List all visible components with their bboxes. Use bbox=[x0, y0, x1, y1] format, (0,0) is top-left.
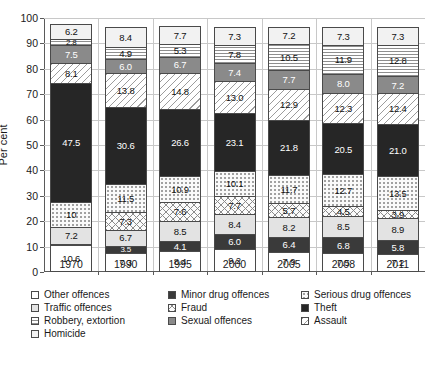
figure: Per cent 0102030405060708090100 6.22.87.… bbox=[0, 0, 441, 366]
legend-item-serious[interactable]: Serious drug offences bbox=[301, 288, 431, 301]
bar-stack[interactable]: 7.37.87.413.023.110.17.78.46.09.2 bbox=[214, 28, 256, 272]
bar-segment[interactable]: 8.5 bbox=[159, 221, 201, 243]
bar-segment-value: 6.2 bbox=[65, 27, 78, 37]
bar-segment[interactable]: 12.9 bbox=[268, 89, 310, 122]
bar-segment[interactable]: 8.4 bbox=[214, 214, 256, 235]
bar-stack[interactable]: 8.44.96.013.830.611.57.36.73.57.3 bbox=[105, 28, 147, 272]
legend-item-fraud[interactable]: Fraud bbox=[168, 301, 301, 314]
bar-segment[interactable]: 13.8 bbox=[105, 73, 147, 108]
legend-item-minor[interactable]: Minor drug offences bbox=[168, 288, 301, 301]
bar-segment[interactable]: 7.3 bbox=[322, 27, 364, 46]
bar-segment-value: 13.8 bbox=[117, 86, 135, 96]
bar-segment[interactable]: 12.4 bbox=[377, 93, 419, 124]
bar-segment[interactable]: 6.7 bbox=[105, 230, 147, 247]
bar-segment[interactable]: 6.0 bbox=[214, 234, 256, 249]
bar-segment[interactable]: 6.4 bbox=[268, 237, 310, 253]
bar-stack[interactable]: 7.75.36.714.826.610.97.68.54.18.4 bbox=[159, 27, 201, 272]
legend-item-homicide[interactable]: Homicide bbox=[31, 328, 168, 341]
legend-swatch-theft bbox=[301, 304, 309, 312]
bar-segment[interactable]: 6.0 bbox=[105, 59, 147, 74]
bar-stack[interactable]: 7.312.87.212.421.013.53.98.95.87.2 bbox=[377, 28, 419, 272]
bar-segment[interactable]: 23.1 bbox=[214, 113, 256, 172]
bar-segment[interactable]: 7.4 bbox=[214, 63, 256, 82]
bar-segment[interactable]: 7.7 bbox=[214, 196, 256, 216]
bar-segment-value: 11.5 bbox=[117, 194, 134, 204]
bar-segment[interactable]: 11.7 bbox=[268, 175, 310, 205]
legend-item-assault[interactable]: Assault bbox=[301, 314, 431, 327]
bar-segment[interactable]: 12.3 bbox=[322, 93, 364, 124]
bar-segment[interactable]: 10 bbox=[50, 202, 92, 227]
bar-segment-value: 8.9 bbox=[391, 225, 404, 235]
bar-segment[interactable]: 21.0 bbox=[377, 124, 419, 177]
bar-segment[interactable]: 7.8 bbox=[214, 45, 256, 65]
bar-segment-value: 7.2 bbox=[65, 231, 78, 241]
bar-segment[interactable]: 7.6 bbox=[159, 202, 201, 221]
bar-segment-value: 10 bbox=[66, 210, 76, 220]
bar-segment[interactable]: 7.7 bbox=[159, 26, 201, 46]
category-separator bbox=[262, 18, 263, 272]
bar-segment[interactable]: 8.4 bbox=[105, 27, 147, 48]
bar-segment[interactable]: 12.8 bbox=[377, 45, 419, 78]
legend-item-sexual[interactable]: Sexual offences bbox=[168, 314, 301, 327]
bar-segment[interactable]: 8.1 bbox=[50, 63, 92, 84]
bar-segment[interactable]: 7.5 bbox=[50, 45, 92, 64]
bar-segment[interactable]: 10.1 bbox=[214, 171, 256, 197]
legend-item-robbery[interactable]: Robbery, extortion bbox=[31, 314, 168, 327]
legend-swatch-other bbox=[31, 291, 39, 299]
y-axis-tick bbox=[40, 221, 44, 222]
legend-spacer bbox=[301, 328, 431, 341]
y-axis-tick bbox=[40, 43, 44, 44]
y-axis-tick-label: 10 bbox=[26, 241, 38, 252]
bar-segment[interactable]: 5.8 bbox=[377, 240, 419, 255]
bar-segment[interactable]: 8.2 bbox=[268, 217, 310, 238]
bar-segment[interactable]: 6.8 bbox=[322, 237, 364, 254]
bar-segment[interactable]: 7.3 bbox=[377, 27, 419, 46]
bar-segment[interactable]: 21.8 bbox=[268, 120, 310, 175]
bar-segment-value: 7.3 bbox=[228, 32, 241, 42]
bar-stack[interactable]: 7.311.98.012.320.512.74.58.56.87.5 bbox=[322, 28, 364, 272]
legend-spacer bbox=[168, 328, 301, 341]
legend-item-theft[interactable]: Theft bbox=[301, 301, 431, 314]
bar-segment-value: 7.5 bbox=[337, 258, 350, 268]
bar-segment[interactable]: 6.7 bbox=[159, 57, 201, 74]
legend-label: Robbery, extortion bbox=[44, 316, 125, 326]
bar-segment[interactable]: 8.5 bbox=[322, 216, 364, 238]
bar-segment[interactable]: 26.6 bbox=[159, 109, 201, 177]
bar-segment[interactable]: 7.2 bbox=[377, 76, 419, 94]
bar-stack[interactable]: 7.210.57.712.921.811.75.78.26.47.9 bbox=[268, 28, 310, 272]
bar-segment[interactable]: 30.6 bbox=[105, 107, 147, 185]
bar-segment[interactable]: 8.9 bbox=[377, 218, 419, 241]
bar-segment-value: 2.8 bbox=[66, 39, 77, 46]
bar-segment[interactable]: 7.2 bbox=[50, 227, 92, 245]
bar-stack[interactable]: 6.22.87.58.147.5107.20.210.6 bbox=[50, 25, 92, 272]
legend-label: Homicide bbox=[44, 329, 86, 339]
bar-segment-value: 20.5 bbox=[334, 145, 352, 155]
y-axis-tick-label: 60 bbox=[26, 114, 38, 125]
bar-segment-value: 8.5 bbox=[337, 222, 350, 232]
bar-segment-value: 12.9 bbox=[280, 100, 298, 110]
bar-segment[interactable]: 11.5 bbox=[105, 184, 147, 213]
bar-segment[interactable]: 5.7 bbox=[268, 203, 310, 217]
bar-segment[interactable]: 7.3 bbox=[105, 212, 147, 231]
legend-item-traffic[interactable]: Traffic offences bbox=[31, 301, 168, 314]
bar-segment[interactable]: 7.2 bbox=[268, 27, 310, 45]
y-axis-tick-label: 50 bbox=[26, 140, 38, 151]
bar-segment[interactable]: 6.2 bbox=[50, 24, 92, 40]
bar-segment[interactable]: 13.5 bbox=[377, 176, 419, 210]
bar-segment-value: 4.1 bbox=[174, 242, 187, 252]
bar-segment[interactable]: 14.8 bbox=[159, 73, 201, 111]
bar-segment[interactable]: 7.7 bbox=[268, 70, 310, 90]
bar-segment[interactable]: 10.9 bbox=[159, 176, 201, 204]
bar-segment[interactable]: 10.5 bbox=[268, 44, 310, 71]
bar-segment[interactable]: 8.0 bbox=[322, 74, 364, 94]
bar-segment[interactable]: 20.5 bbox=[322, 123, 364, 175]
bar-segment[interactable]: 5.3 bbox=[159, 44, 201, 57]
bar-segment[interactable]: 12.7 bbox=[322, 174, 364, 206]
bar-segment[interactable]: 7.3 bbox=[214, 27, 256, 46]
bar-segment-value: 47.5 bbox=[62, 138, 80, 148]
bar-segment[interactable]: 11.9 bbox=[322, 45, 364, 75]
bar-segment-value: 10.6 bbox=[62, 254, 80, 264]
legend-item-other[interactable]: Other offences bbox=[31, 288, 168, 301]
bar-segment[interactable]: 47.5 bbox=[50, 83, 92, 204]
bar-segment[interactable]: 13.0 bbox=[214, 81, 256, 114]
